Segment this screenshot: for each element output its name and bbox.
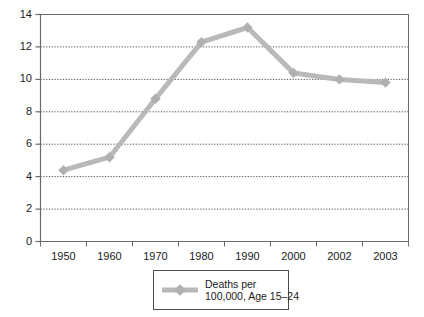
series-markers — [58, 22, 390, 175]
x-axis-tick-label: 1970 — [133, 251, 179, 262]
y-axis-tick-label: 12 — [6, 41, 32, 52]
series-deaths-per-100000 — [58, 22, 390, 175]
data-point-marker — [58, 165, 68, 175]
x-axis-tick-label: 1980 — [179, 251, 225, 262]
data-point-marker — [334, 74, 344, 84]
y-axis-tick-label: 0 — [6, 236, 32, 247]
diamond-line-marker-icon — [161, 282, 199, 298]
legend: Deaths per 100,000, Age 15–24 — [153, 270, 289, 310]
gridlines — [41, 47, 409, 209]
y-axis-tick-label: 10 — [6, 73, 32, 84]
plot-frame — [40, 15, 409, 242]
x-axis-tick-label: 2003 — [363, 251, 409, 262]
y-axis-tick-label: 14 — [6, 9, 32, 20]
y-axis-tick-label: 4 — [6, 171, 32, 182]
x-axis-tick-label: 1960 — [87, 251, 133, 262]
x-axis-tick-label: 2000 — [271, 251, 317, 262]
y-axis-tick-label: 2 — [6, 203, 32, 214]
legend-label: Deaths per 100,000, Age 15–24 — [205, 278, 299, 303]
y-axis-ticks — [36, 15, 41, 242]
y-axis-tick-label: 8 — [6, 106, 32, 117]
data-point-marker — [380, 77, 390, 87]
line-chart: 02468101214 1950196019701980199020002002… — [0, 0, 424, 317]
series-line — [64, 28, 386, 171]
x-axis-tick-label: 1950 — [41, 251, 87, 262]
x-axis-tick-label: 2002 — [317, 251, 363, 262]
x-axis-ticks — [41, 242, 409, 247]
y-axis-tick-label: 6 — [6, 138, 32, 149]
x-axis-tick-label: 1990 — [225, 251, 271, 262]
legend-entry: Deaths per 100,000, Age 15–24 — [154, 271, 288, 309]
